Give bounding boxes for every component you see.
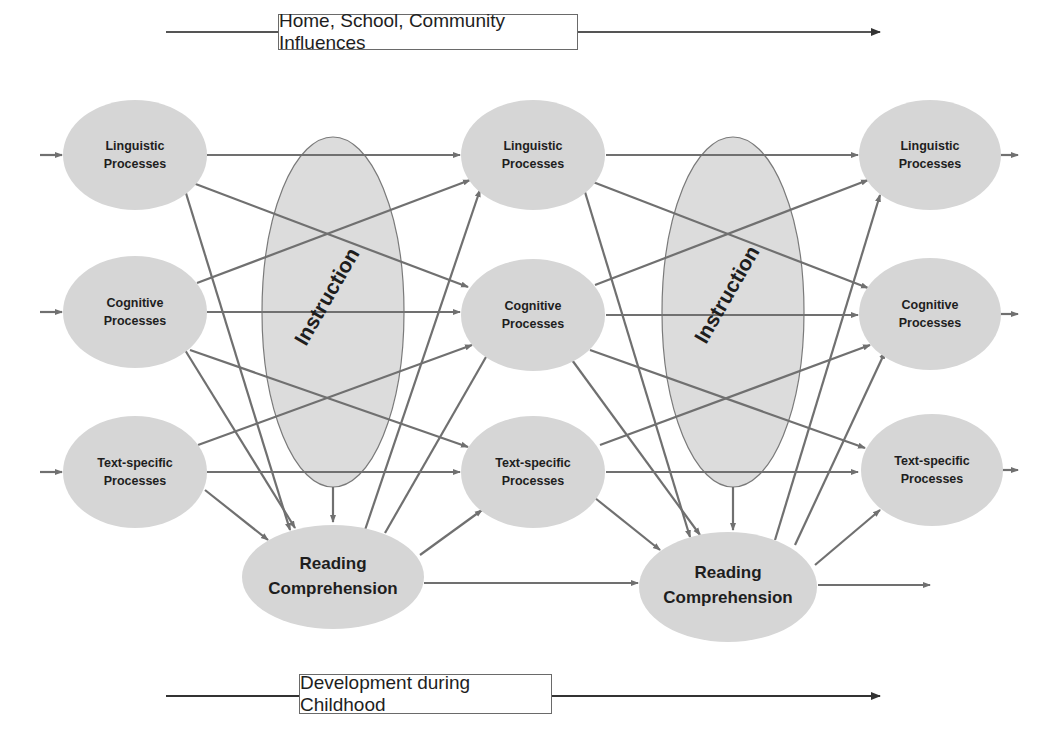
node-label-line1: Text-specific <box>97 456 173 470</box>
node-label-line1: Cognitive <box>902 298 959 312</box>
node-label-line2: Processes <box>502 317 565 331</box>
node-label-line2: Processes <box>899 157 962 171</box>
node-linguistic-3: Linguistic Processes <box>859 100 1001 210</box>
node-label-line1: Reading <box>694 563 761 582</box>
node-text-specific-3: Text-specific Processes <box>861 414 1003 526</box>
node-reading-comprehension-1: Reading Comprehension <box>242 525 424 629</box>
instruction-ellipse-2 <box>662 137 804 487</box>
node-label-line1: Linguistic <box>900 139 959 153</box>
bottom-banner-label: Development during Childhood <box>300 672 551 716</box>
node-label-line2: Processes <box>104 474 167 488</box>
diagram-canvas: Instruction Instruction Linguistic Proce… <box>0 0 1051 748</box>
node-linguistic-2: Linguistic Processes <box>461 100 605 210</box>
top-banner-label: Home, School, Community Influences <box>279 10 577 54</box>
node-cognitive-2: Cognitive Processes <box>461 259 605 371</box>
node-text-specific-2: Text-specific Processes <box>461 416 605 528</box>
node-text-specific-1: Text-specific Processes <box>63 416 207 528</box>
node-label-line2: Processes <box>502 157 565 171</box>
bottom-banner: Development during Childhood <box>299 674 552 714</box>
node-label-line2: Processes <box>901 472 964 486</box>
node-label-line2: Processes <box>502 474 565 488</box>
node-label-line2: Processes <box>899 316 962 330</box>
node-label-line1: Text-specific <box>894 454 970 468</box>
node-label-line2: Processes <box>104 157 167 171</box>
node-label-line1: Cognitive <box>107 296 164 310</box>
node-label-line2: Comprehension <box>268 579 397 598</box>
node-label-line2: Processes <box>104 314 167 328</box>
node-cognitive-3: Cognitive Processes <box>859 258 1001 370</box>
node-label-line1: Text-specific <box>495 456 571 470</box>
node-cognitive-1: Cognitive Processes <box>63 256 207 368</box>
node-reading-comprehension-2: Reading Comprehension <box>639 532 817 642</box>
node-linguistic-1: Linguistic Processes <box>63 100 207 210</box>
top-banner: Home, School, Community Influences <box>278 14 578 50</box>
node-label-line2: Comprehension <box>663 588 792 607</box>
node-label-line1: Linguistic <box>503 139 562 153</box>
node-label-line1: Linguistic <box>105 139 164 153</box>
node-label-line1: Cognitive <box>505 299 562 313</box>
node-label-line1: Reading <box>299 554 366 573</box>
